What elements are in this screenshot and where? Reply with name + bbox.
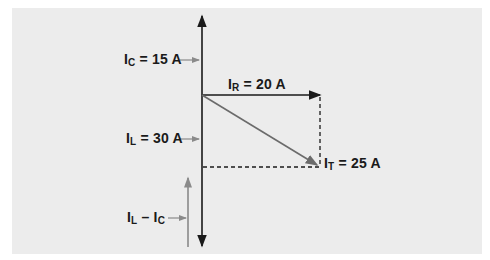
- ic-label-sub: C: [128, 57, 135, 68]
- ic-label: IC = 15 A: [124, 51, 182, 68]
- it-label: IT = 25 A: [324, 155, 381, 172]
- il-minus-ic-label: IL – IC: [127, 209, 165, 226]
- ir-label-sub: R: [232, 82, 239, 93]
- ir-label: IR = 20 A: [228, 76, 286, 93]
- it-resultant-arrow: [202, 95, 317, 165]
- it-label-sub: T: [328, 161, 334, 172]
- diff-minus: –: [137, 209, 153, 225]
- il-label-value: = 30 A: [141, 130, 183, 146]
- il-label: IL = 30 A: [126, 130, 183, 147]
- phasor-diagram: [0, 0, 490, 260]
- il-label-sub: L: [130, 136, 136, 147]
- it-label-value: = 25 A: [339, 155, 381, 171]
- ic-label-value: = 15 A: [140, 51, 182, 67]
- ir-label-value: = 20 A: [244, 76, 286, 92]
- diff-sub2: C: [158, 215, 165, 226]
